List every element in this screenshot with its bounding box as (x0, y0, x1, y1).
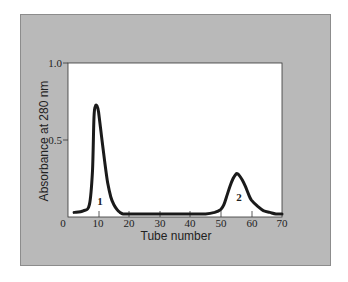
y-tick-label-1.0: 1.0 (48, 57, 62, 69)
x-tick-label-60: 60 (247, 217, 259, 229)
peak-2-label: 2 (236, 191, 242, 203)
peak-1-label: 1 (97, 195, 103, 207)
x-tick-label-50: 50 (216, 217, 228, 229)
y-axis-label: Absorbance at 280 nm (37, 81, 51, 202)
x-tick-label-10: 10 (93, 217, 105, 229)
x-tick-label-40: 40 (185, 217, 197, 229)
x-tick-label-20: 20 (124, 217, 136, 229)
x-tick-label-70: 70 (277, 217, 289, 229)
chromatography-chart: 1.0 0.5 0 10 20 30 40 50 60 70 Tube numb… (0, 0, 348, 282)
x-tick-label-0: 0 (60, 217, 66, 229)
x-axis-label: Tube number (141, 229, 212, 243)
x-tick-label-30: 30 (155, 217, 167, 229)
